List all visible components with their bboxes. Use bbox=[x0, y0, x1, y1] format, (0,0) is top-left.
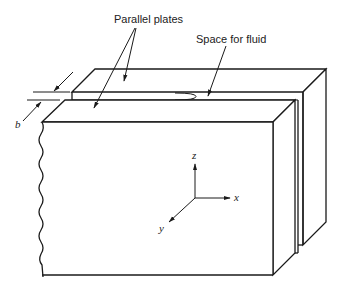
z-axis-label: z bbox=[191, 149, 197, 161]
x-axis-label: x bbox=[233, 191, 239, 203]
gap-label: b bbox=[15, 118, 21, 130]
fluid-space bbox=[72, 93, 298, 100]
parallel-plates-callout: Parallel plates bbox=[94, 13, 184, 108]
parallel-plates-diagram: b Parallel plates Space for fluid z x y bbox=[0, 0, 344, 290]
space-for-fluid-label: Space for fluid bbox=[196, 33, 266, 45]
parallel-plates-label: Parallel plates bbox=[114, 13, 184, 25]
y-axis-label: y bbox=[158, 222, 164, 234]
front-plate bbox=[39, 100, 298, 277]
